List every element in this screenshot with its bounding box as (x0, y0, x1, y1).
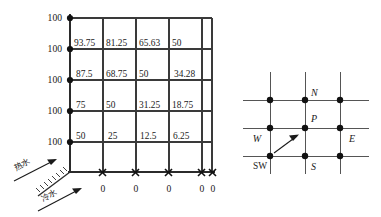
cell-value: 93.75 (74, 38, 95, 48)
left-label-0: 100 (48, 12, 63, 23)
finite-difference-temperature-grid: 100 100 100 100 100 0 0 0 0 0 93.75 81.2… (0, 0, 235, 217)
cell-value: 50 (106, 100, 116, 110)
cell-value: 6.25 (173, 131, 190, 141)
node-label-southwest: SW (253, 161, 267, 171)
hot-water-label: 热水 (12, 156, 32, 173)
hot-water-arrowhead (47, 159, 57, 165)
mesh-horizontal-lines (70, 18, 212, 142)
node-label-south: S (311, 161, 316, 172)
bottom-label-0: 0 (101, 183, 106, 194)
southwest-arrowhead (289, 135, 299, 142)
cell-value: 65.63 (139, 38, 160, 48)
bottom-label-2: 0 (167, 183, 172, 194)
mesh-value-row-3: 50 25 12.5 6.25 (76, 131, 190, 141)
cell-value: 25 (108, 131, 118, 141)
cell-value: 50 (172, 38, 182, 48)
node-label-north: N (310, 87, 319, 98)
node-label-west: W (253, 133, 263, 144)
cell-value: 18.75 (172, 100, 193, 110)
node-label-point: P (310, 113, 317, 124)
cold-water-arrowhead (72, 188, 82, 194)
left-label-3: 100 (48, 105, 63, 116)
bottom-boundary-labels: 0 0 0 0 0 (101, 183, 216, 194)
hot-water-annotation: 热水 (12, 156, 57, 181)
left-label-1: 100 (48, 43, 63, 54)
left-label-2: 100 (48, 74, 63, 85)
left-label-4: 100 (48, 136, 63, 147)
bottom-label-1: 0 (134, 183, 139, 194)
mesh-value-row-2: 75 50 31.25 18.75 (76, 100, 193, 110)
cell-value: 12.5 (140, 131, 157, 141)
cell-value: 31.25 (139, 100, 160, 110)
cell-value: 50 (76, 131, 86, 141)
cell-value: 87.5 (76, 69, 93, 79)
figure-root: 100 100 100 100 100 0 0 0 0 0 93.75 81.2… (0, 0, 381, 217)
southwest-direction-arrow (274, 135, 299, 154)
cell-value: 68.75 (106, 69, 127, 79)
cell-value: 34.28 (174, 69, 195, 79)
compass-stencil-grid: N P W E S SW (235, 0, 381, 217)
left-boundary-labels: 100 100 100 100 100 (48, 12, 63, 147)
cell-value: 50 (139, 69, 149, 79)
cell-value: 81.25 (106, 38, 127, 48)
left-diagram-svg: 100 100 100 100 100 0 0 0 0 0 93.75 81.2… (0, 0, 235, 217)
right-diagram-svg: N P W E S SW (235, 0, 381, 217)
bottom-label-4: 0 (211, 183, 216, 194)
node-label-east: E (348, 133, 355, 144)
bottom-label-3: 0 (200, 183, 205, 194)
cell-value: 75 (76, 100, 86, 110)
mesh-value-row-0: 93.75 81.25 65.63 50 (74, 38, 182, 48)
